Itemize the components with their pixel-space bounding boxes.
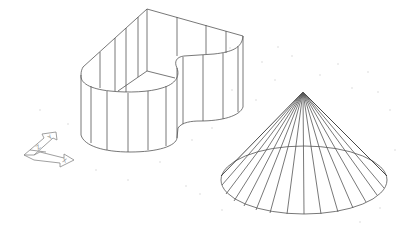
- grid-dots: [39, 46, 396, 223]
- ucs-icon[interactable]: Y X Z: [24, 132, 74, 167]
- cone[interactable]: [221, 92, 387, 214]
- ucs-y-label: Y: [45, 133, 53, 142]
- cad-viewport[interactable]: Y X Z: [0, 0, 406, 233]
- extruded-solid[interactable]: [81, 9, 243, 152]
- ucs-x-label: X: [62, 156, 68, 164]
- drawing-canvas[interactable]: Y X Z: [0, 0, 406, 233]
